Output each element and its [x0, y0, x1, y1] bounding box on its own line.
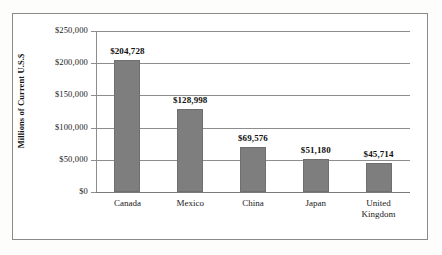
x-axis-tick-labels: CanadaMexicoChinaJapanUnited Kingdom [96, 196, 410, 236]
gridline [96, 63, 410, 64]
y-axis-tick-mark [91, 128, 96, 129]
y-axis-tick-label: $150,000 [28, 89, 88, 99]
bar [177, 109, 203, 192]
bar [303, 159, 329, 192]
y-axis-tick-mark [91, 192, 96, 193]
y-axis-tick-mark [91, 95, 96, 96]
bar [366, 163, 392, 192]
plot-area: $204,728$128,998$69,576$51,180$45,714 [96, 31, 410, 192]
y-axis-tick-mark [91, 63, 96, 64]
bar-value-label: $69,576 [213, 133, 293, 143]
y-axis-tick-label: $100,000 [28, 122, 88, 132]
y-axis-tick-label: $250,000 [28, 25, 88, 35]
y-axis-tick-label: $50,000 [28, 154, 88, 164]
bar [240, 147, 266, 192]
bar-value-label: $45,714 [339, 149, 419, 159]
bar-value-label: $128,998 [150, 95, 230, 105]
y-axis-tick-mark [91, 160, 96, 161]
chart-figure: Millions of Current U.S.$ $0$50,000$100,… [0, 0, 442, 255]
y-axis-tick-mark [91, 31, 96, 32]
y-axis-tick-labels: $0$50,000$100,000$150,000$200,000$250,00… [24, 0, 88, 255]
gridline [96, 95, 410, 96]
gridline [96, 128, 410, 129]
x-axis-category-label: United Kingdom [339, 198, 419, 220]
bar-value-label: $204,728 [87, 46, 167, 56]
bar [114, 60, 140, 192]
gridline [96, 31, 410, 32]
y-axis-tick-label: $200,000 [28, 57, 88, 67]
gridline [96, 192, 410, 193]
y-axis-tick-label: $0 [28, 186, 88, 196]
